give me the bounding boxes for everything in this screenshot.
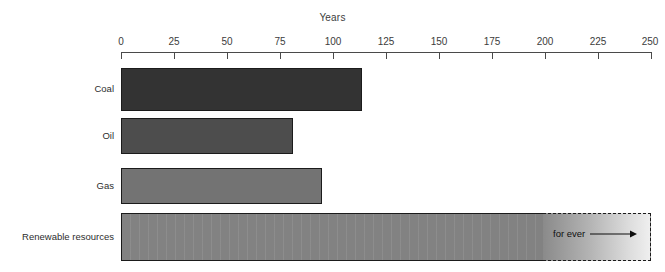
axis-tick-label-100: 100 [325, 36, 342, 47]
axis-tick-50 [227, 52, 228, 59]
bar-gas [121, 168, 322, 204]
axis-tick-label-50: 50 [221, 36, 232, 47]
resource-lifetime-bar-chart: Years 0 25 50 75 100 125 150 175 200 225… [0, 0, 665, 272]
axis-tick-25 [174, 52, 175, 59]
axis-tick-label-150: 150 [431, 36, 448, 47]
bar-coal [121, 68, 362, 111]
axis-tick-75 [280, 52, 281, 59]
axis-tick-label-200: 200 [537, 36, 554, 47]
axis-tick-175 [492, 52, 493, 59]
axis-tick-125 [386, 52, 387, 59]
category-label-oil: Oil [102, 130, 114, 141]
forever-label: for ever [553, 228, 585, 239]
axis-tick-150 [439, 52, 440, 59]
axis-tick-label-225: 225 [590, 36, 607, 47]
category-label-coal: Coal [94, 83, 114, 94]
axis-tick-label-25: 25 [168, 36, 179, 47]
axis-tick-225 [598, 52, 599, 59]
category-label-renewable-resources: Renewable resources [22, 231, 114, 242]
axis-tick-label-75: 75 [274, 36, 285, 47]
axis-tick-label-250: 250 [642, 36, 659, 47]
axis-tick-100 [333, 52, 334, 59]
right-arrow-icon [590, 229, 638, 239]
forever-annotation: for ever [553, 228, 638, 239]
axis-tick-250 [651, 52, 652, 59]
axis-title: Years [0, 12, 665, 23]
axis-tick-label-125: 125 [378, 36, 395, 47]
category-label-gas: Gas [97, 180, 114, 191]
axis-tick-label-175: 175 [484, 36, 501, 47]
bar-renewable-resources [121, 213, 543, 261]
bar-oil [121, 118, 293, 154]
axis-tick-200 [545, 52, 546, 59]
axis-tick-label-0: 0 [118, 36, 124, 47]
axis-tick-0 [121, 52, 122, 59]
